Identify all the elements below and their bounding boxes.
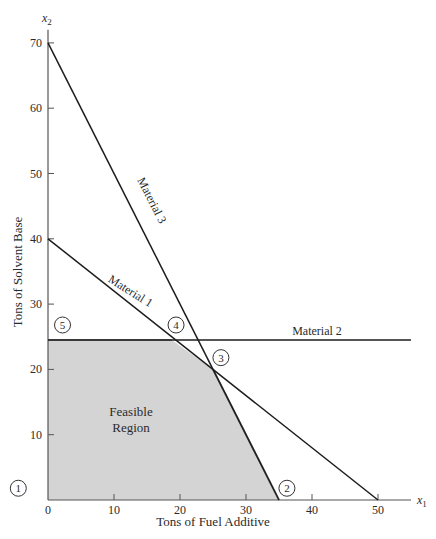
- x-tick-label: 50: [372, 503, 384, 517]
- y-tick-label: 50: [30, 167, 42, 181]
- x1-subscript: 1: [422, 499, 427, 509]
- x2-axis-symbol: x2: [41, 11, 52, 27]
- y-tick-label: 40: [30, 232, 42, 246]
- extreme-point-2: 2: [279, 480, 295, 496]
- extreme-point-label: 5: [60, 319, 66, 331]
- feasible-region-label-line1: Feasible: [109, 404, 153, 419]
- constraint-label-material-3: Material 3: [134, 175, 169, 226]
- x-axis-title: Tons of Fuel Additive: [156, 514, 270, 529]
- extreme-point-label: 4: [173, 319, 179, 331]
- extreme-point-1: 1: [10, 480, 26, 496]
- y-tick-label: 30: [30, 297, 42, 311]
- feasible-region: [48, 340, 279, 500]
- extreme-point-label: 3: [218, 352, 224, 364]
- constraint-label-material-2: Material 2: [292, 324, 342, 338]
- x-tick-label: 40: [306, 503, 318, 517]
- y-tick-label: 70: [30, 36, 42, 50]
- y-tick-label: 20: [30, 362, 42, 376]
- feasible-region-fill: [48, 340, 279, 500]
- extreme-point-label: 1: [16, 482, 22, 494]
- extreme-point-3: 3: [213, 350, 229, 366]
- extreme-point-label: 2: [284, 482, 290, 494]
- linear-programming-chart: 0102030405010203040506070x1x2 Material 1…: [0, 0, 436, 539]
- feasible-region-label-line2: Region: [112, 420, 150, 435]
- y-axis-title: Tons of Solvent Base: [10, 216, 25, 327]
- y-tick-label: 60: [30, 101, 42, 115]
- x2-subscript: 2: [47, 17, 52, 27]
- y-tick-label: 10: [30, 428, 42, 442]
- x-tick-label: 10: [108, 503, 120, 517]
- x-tick-label: 0: [45, 503, 51, 517]
- extreme-point-4: 4: [168, 317, 184, 333]
- x1-axis-symbol: x1: [416, 493, 427, 509]
- extreme-point-5: 5: [55, 317, 71, 333]
